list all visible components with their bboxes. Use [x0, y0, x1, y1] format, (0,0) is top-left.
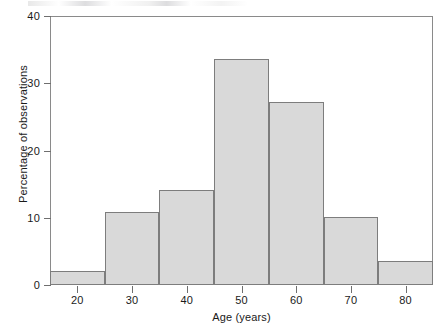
histogram-bar[interactable] [50, 271, 105, 285]
x-axis-tick-label: 50 [222, 295, 262, 306]
x-axis-title: Age (years) [50, 311, 433, 323]
y-axis-tick-label: 20 [27, 146, 40, 157]
x-axis-tick-label: 80 [386, 295, 426, 306]
x-axis-tick [351, 286, 352, 293]
histogram-bar[interactable] [105, 212, 160, 285]
y-axis-tick [44, 16, 51, 17]
x-axis-tick [242, 286, 243, 293]
x-axis-tick [187, 286, 188, 293]
x-axis-tick-label: 40 [167, 295, 207, 306]
y-axis-tick-label: 10 [27, 213, 40, 224]
bars-layer [50, 16, 433, 285]
x-axis-tick-label: 60 [276, 295, 316, 306]
histogram-bar[interactable] [214, 59, 269, 285]
y-axis-tick [44, 218, 51, 219]
x-axis-tick-label: 30 [112, 295, 152, 306]
x-axis-tick [406, 286, 407, 293]
x-axis-tick [77, 286, 78, 293]
x-axis-tick-label: 70 [331, 295, 371, 306]
y-axis-tick [44, 285, 51, 286]
y-axis-tick [44, 151, 51, 152]
x-axis-tick [132, 286, 133, 293]
x-axis-tick-label: 20 [57, 295, 97, 306]
y-axis-title: Percentage of observations [17, 49, 29, 219]
histogram-bar[interactable] [269, 102, 324, 285]
y-axis-tick-label: 30 [27, 78, 40, 89]
y-axis-tick [44, 83, 51, 84]
scan-artifact [28, 1, 248, 6]
x-axis-tick [296, 286, 297, 293]
histogram-bar[interactable] [159, 190, 214, 285]
y-axis-tick-label: 0 [34, 280, 40, 291]
histogram-figure: 40 30 20 10 0 Percentage of observations… [0, 0, 448, 329]
histogram-bar[interactable] [378, 261, 433, 285]
histogram-bar[interactable] [324, 217, 379, 285]
y-axis-tick-label: 40 [27, 11, 40, 22]
